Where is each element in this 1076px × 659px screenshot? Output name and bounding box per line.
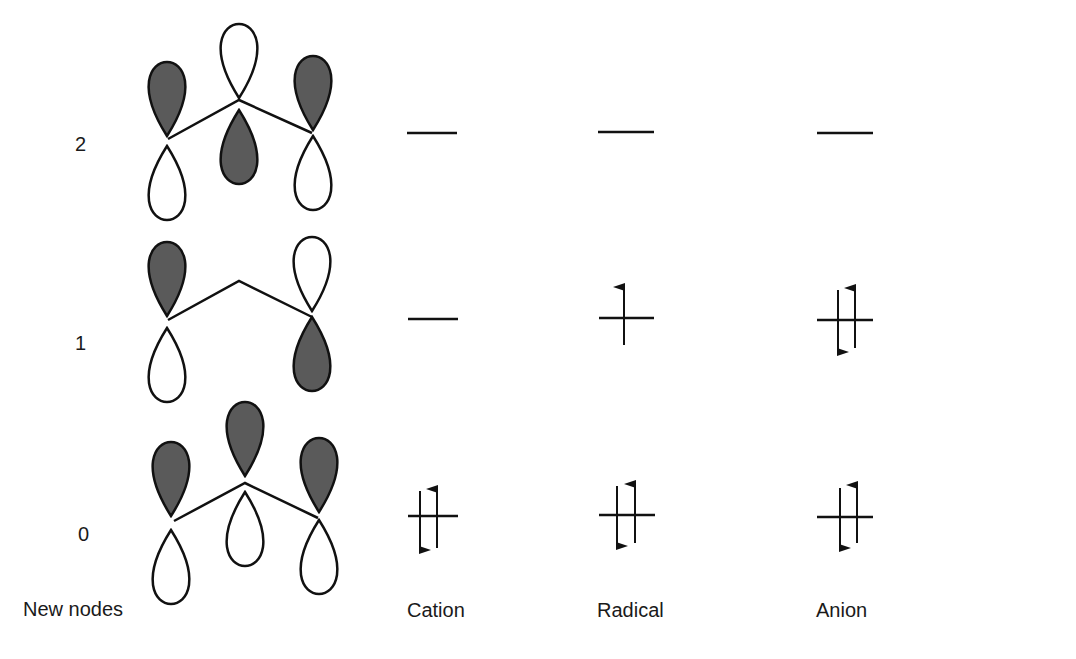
open-lobe	[149, 146, 186, 220]
mo-diagram	[0, 0, 1076, 659]
node-count-label-0: 0	[78, 524, 89, 544]
shaded-lobe	[301, 438, 338, 512]
cation-column	[407, 133, 458, 550]
shaded-lobe	[149, 62, 186, 136]
new-nodes-header: New nodes	[23, 599, 123, 619]
shaded-lobe	[149, 242, 186, 316]
node-count-label-1: 1	[75, 333, 86, 353]
open-lobe	[227, 492, 264, 566]
open-lobe	[153, 530, 190, 604]
open-lobe	[294, 237, 331, 311]
open-lobe	[301, 520, 338, 594]
shaded-lobe	[153, 442, 190, 516]
open-lobe	[221, 24, 258, 98]
shaded-lobe	[227, 402, 264, 476]
allyl-backbone	[168, 281, 312, 320]
orbital-level-0	[153, 402, 338, 604]
anion-label: Anion	[816, 600, 867, 620]
cation-label: Cation	[407, 600, 465, 620]
shaded-lobe	[221, 110, 258, 184]
anion-column	[817, 133, 873, 548]
radical-label: Radical	[597, 600, 664, 620]
shaded-lobe	[294, 317, 331, 391]
shaded-lobe	[295, 56, 332, 130]
node-count-label-2: 2	[75, 134, 86, 154]
open-lobe	[295, 136, 332, 210]
radical-column	[598, 132, 655, 546]
orbital-level-2	[149, 24, 332, 220]
orbital-level-1	[149, 237, 331, 402]
open-lobe	[149, 328, 186, 402]
